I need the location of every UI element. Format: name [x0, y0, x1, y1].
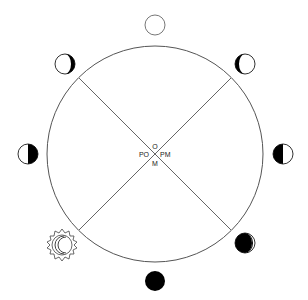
label-left: PO: [139, 151, 150, 158]
label-top: O: [152, 143, 158, 150]
last-quarter-icon: [273, 144, 293, 164]
label-right: PM: [160, 151, 171, 158]
new-moon-icon: [145, 271, 165, 291]
sun-eclipse-icon: [47, 229, 77, 261]
moon-phase-diagram: O PO PM M: [0, 0, 308, 300]
waning-gibbous-icon: [235, 54, 255, 74]
waxing-gibbous-icon: [55, 54, 75, 74]
full-moon-icon: [145, 15, 165, 35]
label-bottom: M: [152, 160, 158, 167]
waning-crescent-icon: [235, 233, 255, 253]
first-quarter-icon: [18, 144, 38, 164]
